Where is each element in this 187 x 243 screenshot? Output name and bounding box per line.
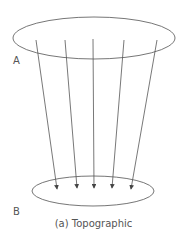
bottom-ellipse-b (32, 176, 154, 206)
arrow-2 (65, 40, 77, 188)
arrow-3 (93, 39, 94, 188)
arrow-1 (36, 40, 57, 189)
arrow-5 (131, 40, 157, 189)
label-a: A (13, 55, 20, 66)
label-b: B (13, 206, 20, 217)
topographic-diagram (0, 0, 187, 243)
arrows (36, 39, 157, 189)
top-ellipse-a (13, 17, 175, 59)
caption: (a) Topographic (0, 218, 187, 229)
arrow-4 (112, 40, 124, 188)
